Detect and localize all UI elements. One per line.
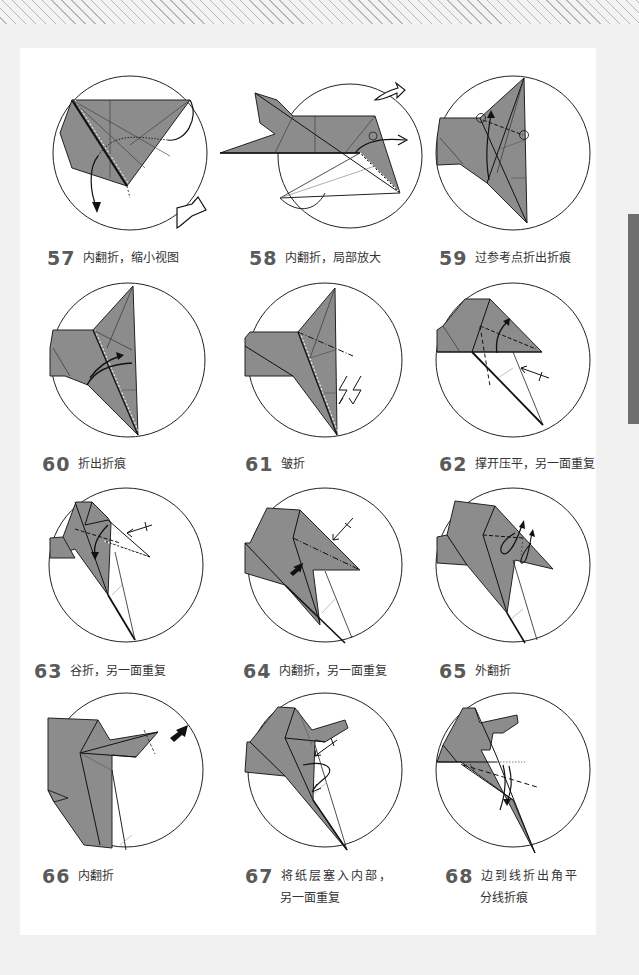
step-66: 66 内翻折 (20, 690, 220, 895)
step-instruction: 内翻折 (78, 866, 114, 886)
step-instruction: 折出折痕 (78, 454, 126, 474)
step-caption: 60 折出折痕 (42, 454, 126, 474)
step-caption: 62 撑开压平，另一面重复 (439, 454, 595, 474)
step-caption: 59 过参考点折出折痕 (439, 248, 571, 268)
step-caption: 57 内翻折，缩小视图 (47, 248, 179, 268)
step-caption: 58 内翻折，局部放大 (249, 248, 381, 268)
step-caption: 67 将纸层塞入内部， (245, 866, 393, 886)
fold-diagram-57 (20, 68, 220, 273)
step-instruction: 撑开压平，另一面重复 (475, 454, 595, 474)
step-62: 62 撑开压平，另一面重复 (425, 278, 625, 483)
step-number: 65 (439, 661, 467, 681)
step-number: 61 (245, 454, 273, 474)
step-caption: 68 边到线折出角平 (445, 866, 579, 886)
step-instruction: 皱折 (281, 454, 305, 474)
step-67: 67 将纸层塞入内部， 另一面重复 (225, 690, 425, 895)
step-number: 64 (243, 661, 271, 681)
step-68: 68 边到线折出角平 分线折痕 (425, 690, 625, 895)
step-instruction: 内翻折，缩小视图 (83, 248, 179, 268)
step-number: 67 (245, 866, 273, 886)
step-instruction: 内翻折，另一面重复 (279, 661, 387, 681)
step-instruction: 将纸层塞入内部， (281, 866, 393, 886)
step-number: 57 (47, 248, 75, 268)
step-instruction-line2: 分线折痕 (480, 888, 528, 908)
step-number: 58 (249, 248, 277, 268)
step-caption: 65 外翻折 (439, 661, 511, 681)
step-59: 59 过参考点折出折痕 (425, 68, 625, 273)
step-caption: 63 谷折，另一面重复 (34, 661, 166, 681)
step-number: 62 (439, 454, 467, 474)
step-63: 63 谷折，另一面重复 (20, 485, 220, 690)
step-60: 60 折出折痕 (20, 278, 220, 483)
step-instruction: 外翻折 (475, 661, 511, 681)
step-number: 66 (42, 866, 70, 886)
fold-diagram-59 (425, 68, 625, 273)
step-instruction-line2: 另一面重复 (280, 888, 340, 908)
step-61: 61 皱折 (225, 278, 425, 483)
step-caption: 61 皱折 (245, 454, 305, 474)
step-instruction: 边到线折出角平 (481, 866, 579, 886)
step-65: 65 外翻折 (425, 485, 625, 690)
step-number: 63 (34, 661, 62, 681)
decorative-hatch-border (0, 0, 639, 24)
step-number: 60 (42, 454, 70, 474)
step-number: 59 (439, 248, 467, 268)
step-instruction: 谷折，另一面重复 (70, 661, 166, 681)
step-number: 68 (445, 866, 473, 886)
step-64: 64 内翻折，另一面重复 (225, 485, 425, 690)
fold-diagram-58 (215, 68, 425, 273)
step-57: 57 内翻折，缩小视图 (20, 68, 220, 273)
step-instruction: 内翻折，局部放大 (285, 248, 381, 268)
chapter-side-tab (628, 214, 639, 424)
step-instruction: 过参考点折出折痕 (475, 248, 571, 268)
step-caption: 64 内翻折，另一面重复 (243, 661, 387, 681)
step-58: 58 内翻折，局部放大 (215, 68, 415, 273)
step-caption: 66 内翻折 (42, 866, 114, 886)
